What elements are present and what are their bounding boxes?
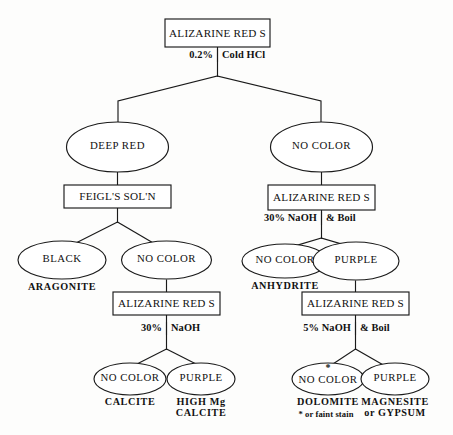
node-high-mg-calcite-outcome[interactable]: PURPLE HIGH Mg CALCITE — [167, 363, 235, 418]
ars-left-label: ALIZARINE RED S — [118, 297, 215, 309]
root-test-label: ALIZARINE RED S — [169, 27, 266, 39]
ars-right-2-reagent-right: & Boil — [360, 322, 390, 333]
high-mg-calcite-line2: CALCITE — [176, 407, 227, 418]
calcite-mineral-label: CALCITE — [105, 396, 156, 407]
purple-calcite-label: PURPLE — [179, 371, 222, 383]
ars-left-reagent-right: NaOH — [171, 322, 200, 333]
link-root-to-deepred — [118, 76, 218, 122]
node-deep-red[interactable]: DEEP RED — [67, 122, 169, 172]
dolomite-mineral-label: DOLOMITE — [297, 396, 359, 407]
feigls-test-label: FEIGL'S SOL'N — [79, 190, 156, 202]
node-feigls-test[interactable]: FEIGL'S SOL'N — [64, 185, 171, 208]
node-root-test[interactable]: ALIZARINE RED S 0.2% Cold HCl — [165, 19, 270, 62]
dolomite-faint-stain-note: * or faint stain — [298, 409, 353, 419]
no-color-calcite-label: NO COLOR — [101, 371, 160, 383]
node-no-color-right[interactable]: NO COLOR — [271, 122, 373, 172]
dolomite-asterisk-marker: * — [326, 362, 331, 373]
node-black[interactable]: BLACK ARAGONITE — [18, 241, 106, 292]
ars-left-reagent-left: 30% — [141, 322, 162, 333]
node-ars-left[interactable]: ALIZARINE RED S 30% NaOH — [113, 292, 220, 335]
ars-right-2-reagent-left: 5% NaOH — [303, 322, 351, 333]
magnesite-mineral-line1: MAGNESITE — [361, 396, 429, 407]
flowchart-canvas: ALIZARINE RED S 0.2% Cold HCl DEEP RED F… — [0, 0, 453, 435]
flowchart-page: ALIZARINE RED S 0.2% Cold HCl DEEP RED F… — [0, 0, 453, 435]
no-color-left-label: NO COLOR — [137, 252, 196, 264]
anhydrite-mineral-label: ANHYDRITE — [251, 280, 319, 291]
no-color-dolomite-label: NO COLOR — [299, 373, 358, 385]
high-mg-calcite-line1: HIGH Mg — [176, 396, 225, 407]
ars-right-reagent-left: 30% NaOH — [264, 212, 317, 223]
no-color-right-label: NO COLOR — [292, 139, 351, 151]
node-purple-right[interactable]: PURPLE — [313, 242, 399, 280]
root-reagent-left: 0.2% — [189, 49, 213, 60]
link-ars2-to-purple — [356, 349, 386, 366]
link-root-to-nocolor — [218, 76, 322, 122]
node-dolomite-outcome[interactable]: * NO COLOR DOLOMITE * or faint stain — [292, 362, 364, 419]
purple-right-label: PURPLE — [334, 253, 377, 265]
node-no-color-left[interactable]: NO COLOR — [122, 241, 212, 279]
node-ars-right[interactable]: ALIZARINE RED S 30% NaOH & Boil — [264, 185, 375, 225]
node-ars-right-2[interactable]: ALIZARINE RED S 5% NaOH & Boil — [302, 292, 409, 335]
black-label: BLACK — [42, 252, 81, 264]
aragonite-mineral-label: ARAGONITE — [28, 281, 96, 292]
node-calcite-outcome[interactable]: NO COLOR CALCITE — [94, 363, 166, 407]
magnesite-mineral-line2: or GYPSUM — [364, 407, 426, 418]
root-reagent-right: Cold HCl — [222, 49, 265, 60]
no-color-anhydrite-label: NO COLOR — [256, 253, 315, 265]
purple-magnesite-label: PURPLE — [373, 371, 416, 383]
node-magnesite-outcome[interactable]: PURPLE MAGNESITE or GYPSUM — [361, 363, 429, 418]
ars-right-label: ALIZARINE RED S — [273, 191, 370, 203]
ars-right-reagent-right: & Boil — [326, 212, 356, 223]
ars-right-2-label: ALIZARINE RED S — [307, 297, 404, 309]
deep-red-label: DEEP RED — [90, 139, 145, 151]
